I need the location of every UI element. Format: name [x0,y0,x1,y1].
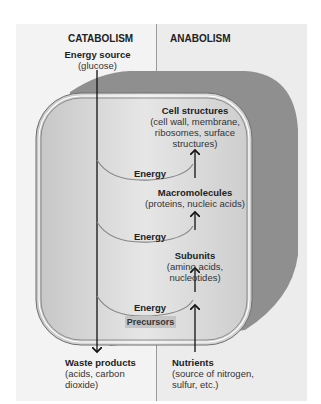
anabolism-header: ANABOLISM [170,33,231,44]
waste-products-label: Waste products (acids, carbon dioxide) [65,357,136,390]
energy-label: Energy [130,302,170,313]
nutrients-label: Nutrients (source of nitrogen, sulfur, e… [172,357,254,390]
precursors-label: Precursors [125,317,176,328]
cell-structures-label: Cell structures (cell wall, membrane, ri… [145,105,245,149]
energy-source-label: Energy source (glucose) [60,49,135,71]
subunits-label: Subunits (amino acids, nucleotides) [160,250,230,283]
macromolecules-label: Macromolecules (proteins, nucleic acids) [140,187,250,209]
catabolism-header: CATABOLISM [68,33,133,44]
energy-label: Energy [130,231,170,242]
energy-label: Energy [130,168,170,179]
